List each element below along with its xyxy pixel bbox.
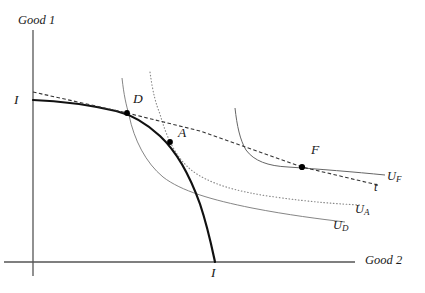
x-axis-label: Good 2 (365, 254, 402, 267)
curve-UF (235, 108, 385, 175)
ppf-indifference-figure: Good 1 Good 2 I I D A F t UD UA UF (0, 0, 425, 293)
x-intercept-label: I (211, 266, 216, 280)
y-axis-label: Good 1 (18, 14, 55, 27)
point-label-D: D (133, 92, 143, 106)
point-label-A: A (178, 126, 186, 140)
point-F (299, 164, 305, 170)
axes-group (4, 30, 355, 276)
point-label-F: F (311, 143, 319, 157)
diagram-canvas (0, 0, 425, 293)
curve-label-UD: UD (333, 219, 349, 233)
curve-label-UA-base: U (355, 202, 364, 216)
curve-label-UA-sub: A (364, 207, 370, 217)
curve-label-UF-base: U (387, 169, 396, 183)
curve-label-UF: UF (387, 170, 402, 184)
curve-label-UD-base: U (333, 218, 342, 232)
curve-label-UA: UA (355, 203, 370, 217)
point-A (167, 139, 173, 145)
curve-label-t: t (374, 181, 377, 194)
curve-label-UD-sub: D (342, 223, 349, 233)
point-D (124, 110, 130, 116)
y-intercept-label: I (14, 93, 19, 107)
curve-ppf (33, 100, 215, 262)
curve-label-UF-sub: F (396, 174, 402, 184)
